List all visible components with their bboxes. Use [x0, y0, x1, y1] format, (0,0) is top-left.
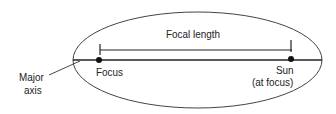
- sun-label: Sun: [276, 64, 294, 76]
- diagram-graphics: [0, 0, 336, 114]
- major-axis-label-line2: axis: [24, 84, 42, 96]
- major-axis-leader-line: [49, 61, 80, 75]
- sun-at-focus-label: (at focus): [252, 76, 293, 88]
- major-axis-label-line1: Major: [19, 71, 44, 83]
- focal-length-label: Focal length: [166, 28, 220, 40]
- sun-dot: [288, 56, 294, 62]
- focus-label: Focus: [96, 66, 123, 78]
- focus-dot: [96, 57, 102, 63]
- ellipse-diagram: Focal length Focus Sun (at focus) Major …: [0, 0, 336, 114]
